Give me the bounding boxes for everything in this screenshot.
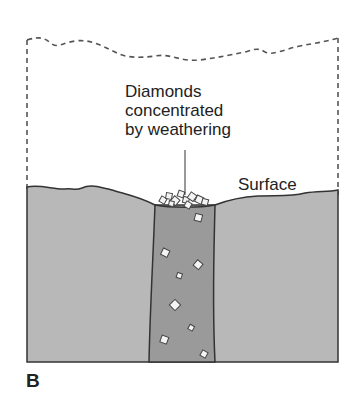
- kimberlite-pipe: [149, 205, 215, 362]
- callout-label: Diamonds concentrated by weathering: [125, 82, 231, 139]
- callout-line-3: by weathering: [125, 120, 231, 139]
- callout-line-2: concentrated: [125, 101, 231, 120]
- callout-line-1: Diamonds: [125, 82, 231, 101]
- diagram-canvas: [0, 0, 362, 394]
- panel-label: B: [26, 370, 40, 392]
- surface-label: Surface: [238, 175, 297, 195]
